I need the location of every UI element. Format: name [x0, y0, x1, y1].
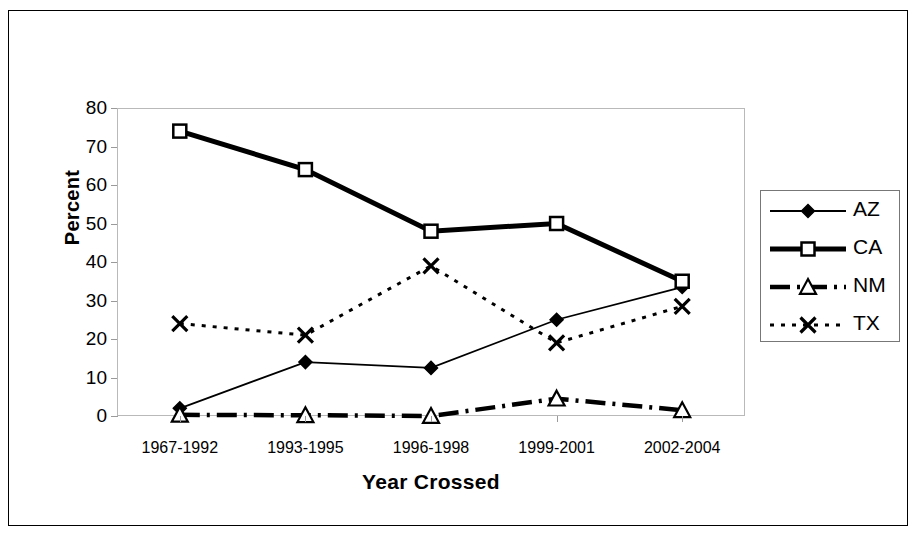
- legend-item-tx[interactable]: TX: [761, 306, 901, 344]
- data-point-marker: [173, 125, 186, 138]
- data-point-marker: [550, 217, 563, 230]
- series-line: [180, 266, 682, 343]
- chart-figure: Percent 01020304050607080 1967-19921993-…: [0, 0, 919, 537]
- legend-swatch-az-icon: [767, 192, 849, 230]
- legend-swatch-ca-icon: [767, 230, 849, 268]
- data-point-marker: [424, 258, 439, 273]
- legend-label: AZ: [853, 198, 880, 219]
- data-point-marker: [172, 316, 187, 331]
- x-tick-mark: [431, 416, 432, 422]
- x-tick-mark: [305, 416, 306, 422]
- x-tick-label: 1967-1992: [115, 440, 245, 456]
- data-point-marker: [802, 243, 815, 256]
- series-az: [173, 281, 688, 415]
- data-point-marker: [298, 328, 313, 343]
- legend-item-az[interactable]: AZ: [761, 192, 901, 230]
- legend-swatch-nm-icon: [767, 268, 849, 306]
- legend-item-ca[interactable]: CA: [761, 230, 901, 268]
- data-point-marker: [299, 356, 312, 369]
- data-point-marker: [550, 313, 563, 326]
- legend-item-nm[interactable]: NM: [761, 268, 901, 306]
- data-point-marker: [801, 318, 816, 333]
- x-tick-mark: [557, 416, 558, 422]
- series-tx: [172, 258, 689, 350]
- data-point-marker: [802, 205, 815, 218]
- x-tick-label: 1996-1998: [366, 440, 496, 456]
- legend-swatch-tx-icon: [767, 306, 849, 344]
- data-point-marker: [425, 225, 438, 238]
- x-tick-label: 1993-1995: [240, 440, 370, 456]
- series-line: [180, 287, 682, 408]
- series-line: [180, 131, 682, 281]
- data-point-marker: [425, 361, 438, 374]
- legend-label: CA: [853, 236, 882, 257]
- data-point-marker: [676, 275, 689, 288]
- x-tick-label: 2002-2004: [617, 440, 747, 456]
- x-tick-mark: [682, 416, 683, 422]
- legend: AZCANMTX: [760, 190, 900, 342]
- x-axis-title: Year Crossed: [117, 470, 745, 494]
- legend-label: NM: [853, 274, 886, 295]
- series-ca: [173, 125, 688, 288]
- x-tick-mark: [180, 416, 181, 422]
- x-tick-label: 1999-2001: [492, 440, 622, 456]
- data-point-marker: [299, 163, 312, 176]
- legend-label: TX: [853, 312, 880, 333]
